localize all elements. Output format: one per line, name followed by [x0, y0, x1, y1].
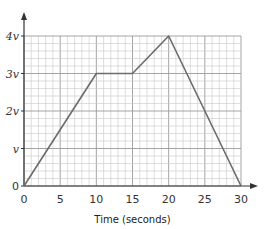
y-tick-label: 3v	[6, 68, 20, 81]
x-tick-label: 30	[234, 193, 248, 206]
y-axis-arrow-icon	[21, 12, 27, 20]
x-tick-label: 20	[162, 193, 176, 206]
x-axis-arrow-icon	[250, 183, 258, 189]
y-tick-label: 0	[12, 180, 19, 193]
x-axis-label: Time (seconds)	[93, 214, 170, 225]
y-tick-label: 4v	[5, 30, 20, 43]
x-tick-label: 5	[57, 193, 64, 206]
velocity-time-chart: 0v2v3v4v051015202530Time (seconds)	[0, 0, 264, 229]
y-tick-label: 2v	[5, 105, 20, 118]
x-tick-label: 10	[89, 193, 103, 206]
y-tick-label: v	[13, 143, 20, 156]
x-tick-label: 0	[21, 193, 28, 206]
x-tick-label: 15	[126, 193, 140, 206]
x-tick-label: 25	[198, 193, 212, 206]
